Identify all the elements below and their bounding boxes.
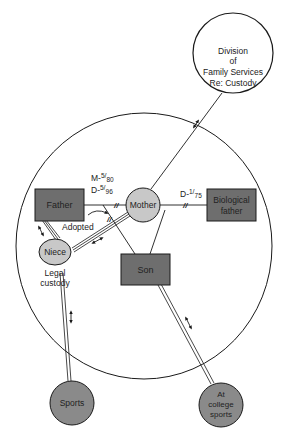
division-node: Division of Family Services Re: Custody [193, 13, 273, 93]
marriage-date-annotation: M-5/80 [91, 172, 114, 183]
bio-divorce-prefix: D- [180, 189, 189, 199]
mother-division-connection [151, 93, 222, 189]
niece-label: Niece [44, 247, 66, 257]
divorce-sub: 96 [106, 188, 114, 195]
adopted-arrow-icon [88, 211, 107, 215]
niece-sports-connection [60, 273, 71, 381]
mother-label: Mother [130, 200, 157, 210]
divorce-date-annotation: D-5/96 [91, 184, 113, 195]
college-sports-arrow-icon [186, 318, 191, 328]
svg-text:M-5/80: M-5/80 [91, 172, 114, 183]
college-sports-label-3: sports [210, 410, 232, 419]
bio-father-label-1: Biological [213, 195, 249, 205]
ecomap-diagram: Division of Family Services Re: Custody … [0, 0, 286, 442]
son-label: Son [137, 265, 153, 275]
mother-node: Mother [126, 188, 160, 222]
legal-custody-label-1: Legal [45, 268, 66, 278]
biological-father-node: Biological father [207, 189, 256, 221]
legal-custody-label-2: custody [40, 278, 70, 288]
marriage-prefix: M- [91, 173, 101, 183]
father-niece-arrow-icon [39, 227, 43, 235]
son-college-sports-connection [158, 284, 214, 384]
division-label-1: Division [218, 46, 248, 56]
bio-divorce-slash-icon: // [182, 201, 188, 210]
son-node: Son [121, 254, 170, 285]
father-label: Father [46, 200, 72, 210]
father-niece-strong-connection [42, 220, 60, 240]
bio-father-label-2: father [221, 206, 243, 216]
division-label-4: Re: Custody [210, 78, 258, 88]
sports-label: Sports [60, 398, 85, 408]
divorce-slash-icon: // [113, 201, 119, 210]
sports-node: Sports [50, 381, 94, 425]
svg-text:D-5/96: D-5/96 [91, 184, 113, 195]
svg-text:D-1/75: D-1/75 [180, 188, 202, 199]
division-label-2: of [229, 56, 237, 66]
bio-divorce-sub: 75 [195, 192, 203, 199]
bio-divorce-date-annotation: D-1/75 [180, 188, 202, 199]
marriage-sub: 80 [107, 176, 115, 183]
adopted-label: Adopted [62, 222, 94, 232]
division-label-3: Family Services [203, 67, 263, 77]
college-sports-node: At college sports [199, 383, 243, 427]
college-sports-label-2: college [208, 400, 234, 409]
divorce-prefix: D- [91, 185, 100, 195]
adopted-slash-icon: // [106, 215, 112, 224]
father-node: Father [35, 189, 84, 221]
niece-node: Niece [39, 239, 71, 265]
college-sports-label-1: At [217, 390, 225, 399]
